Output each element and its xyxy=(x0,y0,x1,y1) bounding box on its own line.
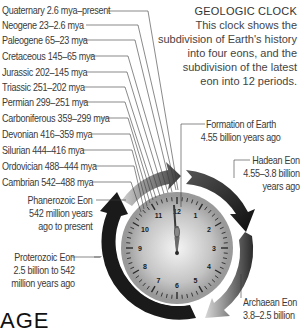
svg-text:6: 6 xyxy=(175,282,179,289)
description-line: into four eons, and the xyxy=(158,46,297,60)
event-name: Formation of Earth xyxy=(206,118,281,131)
period-label-silurian: Silurian 444–416 mya xyxy=(2,144,84,157)
eon-label-hadean: Hadean Eon 4.55–3.8 billion years ago xyxy=(243,154,300,193)
svg-text:7: 7 xyxy=(157,277,161,284)
period-label-cretaceous: Cretaceous 145–65 mya xyxy=(2,50,95,63)
title: GEOLOGIC CLOCK xyxy=(158,4,297,18)
eon-label-phanerozoic: Phanerozoic Eon 542 million years ago to… xyxy=(27,194,92,233)
period-label-paleogene: Paleogene 65–23 mya xyxy=(2,34,87,47)
period-label-triassic: Triassic 251–202 mya xyxy=(2,81,85,94)
svg-text:4: 4 xyxy=(207,263,211,270)
eon-name: Archaean Eon xyxy=(243,296,297,309)
svg-text:11: 11 xyxy=(155,212,163,219)
eon-range: ago to present xyxy=(27,220,92,233)
event-date: 4.55 billion years ago xyxy=(201,131,281,144)
description-line: eon into 12 periods. xyxy=(158,74,297,88)
svg-text:9: 9 xyxy=(138,245,142,252)
eon-range: 3.8–2.5 billion xyxy=(243,309,297,322)
eon-range: 2.5 billion to 542 xyxy=(12,264,75,277)
description-line: subdivision of Earth's history xyxy=(158,32,297,46)
period-label-permian: Permian 299–251 mya xyxy=(2,96,88,109)
svg-text:3: 3 xyxy=(212,245,216,252)
eon-label-archaean: Archaean Eon 3.8–2.5 billion xyxy=(243,296,297,322)
period-label-neogene: Neogene 23–2.6 mya xyxy=(2,19,84,32)
eon-label-proterozoic: Proterozoic Eon 2.5 billion to 542 milli… xyxy=(12,251,75,290)
svg-text:5: 5 xyxy=(194,277,198,284)
period-label-devonian: Devonian 416–359 mya xyxy=(2,128,92,141)
eon-name: Hadean Eon xyxy=(243,154,300,167)
period-label-jurassic: Jurassic 202–145 mya xyxy=(2,66,87,79)
page-heading-partial: AGE xyxy=(0,308,49,332)
title-block: GEOLOGIC CLOCK This clock shows the subd… xyxy=(158,4,297,88)
svg-text:1: 1 xyxy=(194,212,198,219)
eon-name: Proterozoic Eon xyxy=(12,251,75,264)
svg-text:2: 2 xyxy=(207,226,211,233)
period-label-carboniferous: Carboniferous 359–299 mya xyxy=(2,112,110,125)
period-label-ordovician: Ordovician 488–444 mya xyxy=(2,160,97,173)
label-formation-of-earth: Formation of Earth 4.55 billion years ag… xyxy=(206,118,281,144)
period-label-quaternary: Quaternary 2.6 mya–present xyxy=(2,4,110,17)
period-label-cambrian: Cambrian 542–488 mya xyxy=(2,176,93,189)
svg-text:10: 10 xyxy=(141,226,149,233)
eon-range: 4.55–3.8 billion xyxy=(243,167,300,180)
eon-range: 542 million years xyxy=(27,207,92,220)
eon-range: million years ago xyxy=(12,277,75,290)
description-line: This clock shows the xyxy=(158,18,297,32)
description-line: subdivision of the latest xyxy=(158,60,297,74)
svg-text:8: 8 xyxy=(143,263,147,270)
eon-name: Phanerozoic Eon xyxy=(27,194,92,207)
eon-range: years ago xyxy=(243,180,300,193)
